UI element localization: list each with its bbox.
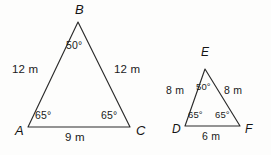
diagram-canvas: B A C 50° 65° 65° 12 m 12 m 9 m E D F 50…	[0, 0, 271, 155]
angle-label-f: 65°	[215, 110, 230, 120]
angle-label-e: 50°	[196, 82, 211, 92]
vertex-label-a: A	[15, 124, 24, 137]
vertex-label-f: F	[245, 123, 252, 135]
vertex-label-c: C	[136, 124, 145, 137]
angle-label-d: 65°	[188, 110, 203, 120]
angle-label-a: 65°	[35, 110, 51, 121]
angle-label-b: 50°	[66, 40, 82, 51]
vertex-label-b: B	[75, 3, 84, 16]
side-label-ef: 8 m	[224, 85, 242, 96]
vertex-label-d: D	[172, 123, 181, 135]
vertex-label-e: E	[201, 46, 209, 58]
side-label-bc: 12 m	[114, 64, 140, 76]
side-label-de: 8 m	[166, 85, 184, 96]
side-label-ac: 9 m	[65, 132, 85, 144]
side-label-df: 6 m	[202, 131, 220, 142]
angle-label-c: 65°	[101, 110, 117, 121]
side-label-ab: 12 m	[12, 64, 38, 76]
